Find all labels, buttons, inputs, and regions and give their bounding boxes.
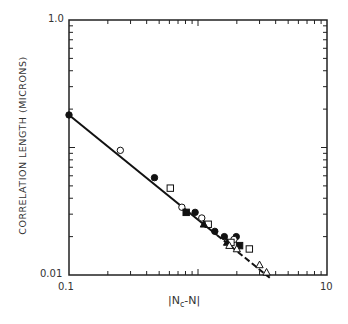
fit-line — [69, 115, 270, 278]
fit-line-dashed — [217, 235, 270, 278]
circle-filled-marker — [192, 209, 198, 215]
x-tick-10: 10 — [320, 281, 333, 292]
circle-filled-marker — [212, 228, 218, 234]
circle-open-marker — [117, 147, 123, 153]
x-tick-0.1: 0.1 — [58, 281, 74, 292]
square-open-marker — [167, 185, 173, 191]
y-axis-label: CORRELATION LENGTH (MICRONS) — [17, 46, 28, 246]
circle-filled-marker — [66, 112, 72, 118]
x-label-n: N — [172, 294, 180, 307]
circle-filled-marker — [151, 174, 157, 180]
x-axis-label: |Nc-N| — [168, 294, 200, 309]
y-tick-1: 1.0 — [48, 13, 64, 24]
square-open-marker — [246, 246, 252, 252]
triangle-open-marker — [263, 268, 270, 275]
y-tick-0.01: 0.01 — [40, 268, 62, 279]
fit-line-solid — [69, 115, 217, 235]
triangle-open-marker — [256, 261, 263, 268]
x-label-tail: -N — [184, 294, 196, 307]
square-filled-marker — [183, 209, 189, 215]
